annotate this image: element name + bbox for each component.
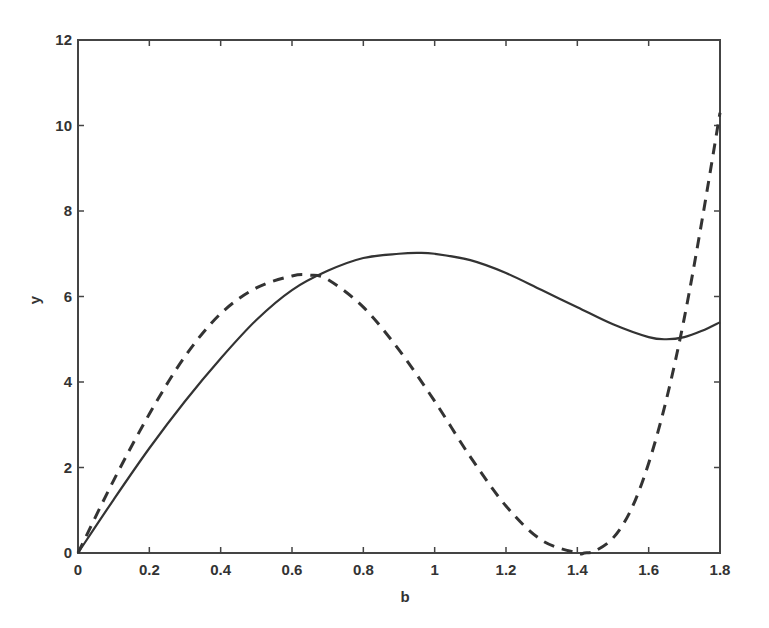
x-tick-label: 0.2	[139, 561, 160, 578]
x-tick-label: 0	[74, 561, 82, 578]
y-tick-label: 0	[64, 544, 72, 561]
y-axis-ticks: 024681012	[55, 31, 720, 561]
y-axis-label: y	[26, 295, 43, 304]
y-tick-label: 12	[55, 31, 72, 48]
line-chart: 00.20.40.60.811.21.41.61.8 024681012 b y	[0, 0, 769, 628]
x-tick-label: 1.4	[567, 561, 589, 578]
plot-frame	[78, 40, 720, 553]
x-axis-ticks: 00.20.40.60.811.21.41.61.8	[74, 40, 731, 578]
x-tick-label: 0.6	[282, 561, 303, 578]
series-solid-line	[78, 253, 720, 553]
x-tick-label: 1.8	[710, 561, 731, 578]
x-tick-label: 1.2	[496, 561, 517, 578]
y-tick-label: 10	[55, 117, 72, 134]
series-layer	[78, 113, 720, 554]
x-tick-label: 0.4	[210, 561, 232, 578]
y-tick-label: 8	[64, 202, 72, 219]
y-tick-label: 4	[64, 373, 73, 390]
x-tick-label: 1	[430, 561, 438, 578]
x-tick-label: 0.8	[353, 561, 374, 578]
y-tick-label: 2	[64, 459, 72, 476]
series-dashed-line	[78, 113, 720, 554]
x-axis-label: b	[400, 588, 409, 605]
x-tick-label: 1.6	[638, 561, 659, 578]
y-tick-label: 6	[64, 288, 72, 305]
plot-area: 00.20.40.60.811.21.41.61.8 024681012	[55, 31, 730, 578]
